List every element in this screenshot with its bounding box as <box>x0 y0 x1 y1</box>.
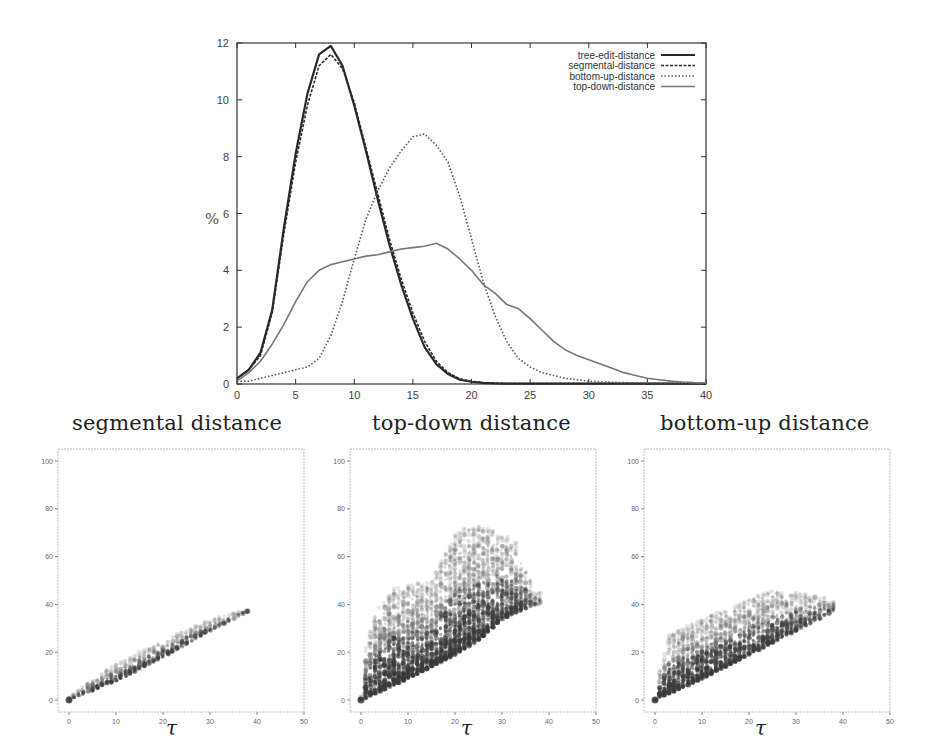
y-tick-label: 0 <box>341 697 345 704</box>
scatter-points <box>358 524 543 703</box>
scatter-points <box>652 589 836 703</box>
y-tick-label: 80 <box>45 505 53 512</box>
y-tick-label: 20 <box>631 649 639 656</box>
y-tick-label: 2 <box>223 321 229 333</box>
y-tick-label: 10 <box>217 94 229 106</box>
x-axis-label-tau: τ <box>461 716 472 740</box>
scatter-title-bottom-up: bottom-up distance <box>660 411 869 435</box>
series-line-segmental-distance <box>237 54 706 383</box>
x-tick-label: 10 <box>348 389 360 401</box>
x-tick-label: 15 <box>407 389 419 401</box>
scatter-svg-segmental: 01020304050020406080100 <box>20 440 320 740</box>
y-tick-label: 100 <box>41 458 53 465</box>
y-tick-label: 0 <box>223 378 229 390</box>
series-line-bottom-up-distance <box>237 134 706 383</box>
x-tick-label: 10 <box>112 718 120 725</box>
scatter-plot-segmental: 01020304050020406080100 τ <box>20 440 320 740</box>
x-tick-label: 10 <box>404 718 412 725</box>
y-tick-label: 100 <box>333 458 345 465</box>
x-tick-label: 25 <box>524 389 536 401</box>
series-line-top-down-distance <box>237 243 706 383</box>
scatter-title-segmental: segmental distance <box>72 411 282 435</box>
y-tick-label: 6 <box>223 208 229 220</box>
plot-frame <box>58 449 304 712</box>
y-tick-label: 80 <box>631 505 639 512</box>
legend-label: top-down-distance <box>573 81 655 92</box>
x-tick-label: 20 <box>745 718 753 725</box>
y-tick-label: 60 <box>45 553 53 560</box>
y-tick-label: 40 <box>631 601 639 608</box>
legend-label: segmental-distance <box>568 60 655 71</box>
x-tick-label: 20 <box>465 389 477 401</box>
scatter-svg-bottom-up: 01020304050020406080100 <box>606 440 906 740</box>
y-tick-label: 100 <box>627 458 639 465</box>
y-tick-label: 40 <box>337 601 345 608</box>
legend-label: bottom-up-distance <box>569 71 655 82</box>
scatter-svg-top-down: 01020304050020406080100 <box>312 440 612 740</box>
scatter-points <box>66 608 251 703</box>
x-tick-label: 40 <box>545 718 553 725</box>
line-chart: 0510152025303540024681012tree-edit-dista… <box>195 30 725 405</box>
x-tick-label: 30 <box>792 718 800 725</box>
x-tick-label: 0 <box>67 718 71 725</box>
y-tick-label: 0 <box>49 697 53 704</box>
y-tick-label: 80 <box>337 505 345 512</box>
y-tick-label: 60 <box>337 553 345 560</box>
x-tick-label: 0 <box>359 718 363 725</box>
y-axis-label: % <box>205 210 219 228</box>
line-chart-svg: 0510152025303540024681012tree-edit-dista… <box>195 30 725 405</box>
x-tick-label: 40 <box>253 718 261 725</box>
scatter-plot-bottom-up: 01020304050020406080100 τ <box>606 440 906 740</box>
x-tick-label: 50 <box>592 718 600 725</box>
y-tick-label: 8 <box>223 151 229 163</box>
x-axis-label-tau: τ <box>166 716 177 740</box>
x-tick-label: 50 <box>300 718 308 725</box>
x-tick-label: 5 <box>293 389 299 401</box>
x-tick-label: 40 <box>700 389 712 401</box>
scatter-plot-top-down: 01020304050020406080100 τ <box>312 440 612 740</box>
y-tick-label: 20 <box>45 649 53 656</box>
x-tick-label: 50 <box>886 718 894 725</box>
x-tick-label: 35 <box>641 389 653 401</box>
x-axis-label-tau: τ <box>755 716 766 740</box>
x-tick-label: 10 <box>698 718 706 725</box>
x-tick-label: 0 <box>653 718 657 725</box>
y-tick-label: 4 <box>223 264 229 276</box>
scatter-title-top-down: top-down distance <box>372 411 571 435</box>
x-tick-label: 30 <box>206 718 214 725</box>
x-tick-label: 40 <box>839 718 847 725</box>
y-tick-label: 20 <box>337 649 345 656</box>
x-tick-label: 20 <box>451 718 459 725</box>
x-tick-label: 30 <box>583 389 595 401</box>
y-tick-label: 0 <box>635 697 639 704</box>
x-tick-label: 30 <box>498 718 506 725</box>
y-tick-label: 12 <box>217 37 229 49</box>
y-tick-label: 40 <box>45 601 53 608</box>
legend: tree-edit-distancesegmental-distancebott… <box>568 50 695 93</box>
y-tick-label: 60 <box>631 553 639 560</box>
series-line-tree-edit-distance <box>237 46 706 384</box>
legend-label: tree-edit-distance <box>578 50 656 61</box>
x-tick-label: 0 <box>234 389 240 401</box>
